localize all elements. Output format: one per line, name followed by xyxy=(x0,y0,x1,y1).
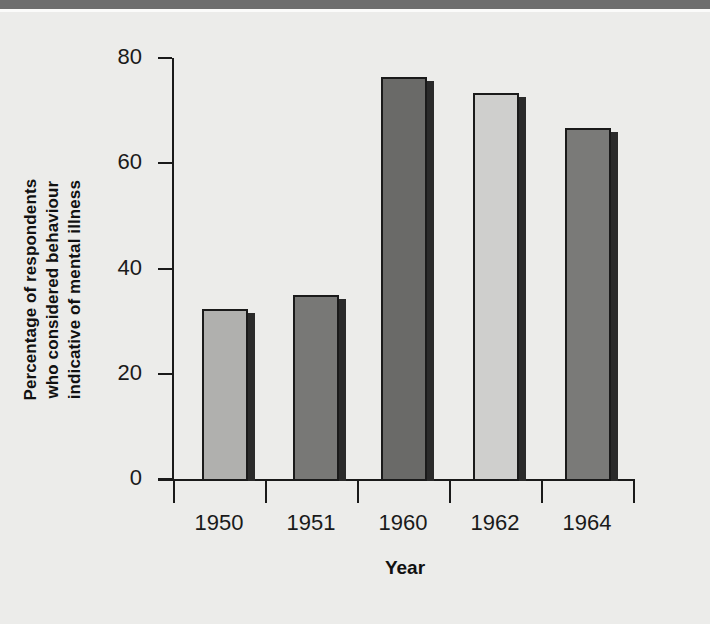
x-axis-tick xyxy=(265,481,267,503)
y-axis-tick xyxy=(158,162,172,164)
y-axis-line xyxy=(172,58,174,479)
top-decorative-band xyxy=(0,0,710,9)
y-axis-tick-label: 20 xyxy=(80,362,142,384)
x-axis-tick xyxy=(357,481,359,503)
figure-container: 020406080 19501951196019621964 Percentag… xyxy=(0,0,710,624)
x-axis-tick xyxy=(449,481,451,503)
y-axis-tick-label: 80 xyxy=(80,46,142,68)
y-axis-tick-label: 0 xyxy=(80,467,142,489)
bar-1960 xyxy=(381,77,427,481)
bar-1964 xyxy=(565,128,611,481)
bar-chart-plot: 020406080 19501951196019621964 Percentag… xyxy=(0,12,710,624)
x-axis-tick xyxy=(173,481,175,503)
bar-1950 xyxy=(202,309,248,481)
y-axis-tick xyxy=(158,478,172,480)
bar-1951 xyxy=(293,295,339,481)
y-axis-title: Percentage of respondentswho considered … xyxy=(20,145,85,435)
y-axis-tick xyxy=(158,373,172,375)
x-axis-tick xyxy=(633,481,635,503)
y-axis-title-line: indicative of mental illness xyxy=(64,145,86,435)
y-axis-title-line: Percentage of respondents xyxy=(20,145,42,435)
y-axis-title-line: who considered behaviour xyxy=(42,145,64,435)
bar-1962 xyxy=(473,93,519,481)
y-axis-tick-label: 40 xyxy=(80,257,142,279)
x-axis-tick-label-1964: 1964 xyxy=(527,512,647,534)
y-axis-tick-label: 60 xyxy=(80,151,142,173)
y-axis-tick xyxy=(158,268,172,270)
y-axis-tick xyxy=(158,57,172,59)
x-axis-title: Year xyxy=(345,557,465,579)
x-axis-tick xyxy=(541,481,543,503)
